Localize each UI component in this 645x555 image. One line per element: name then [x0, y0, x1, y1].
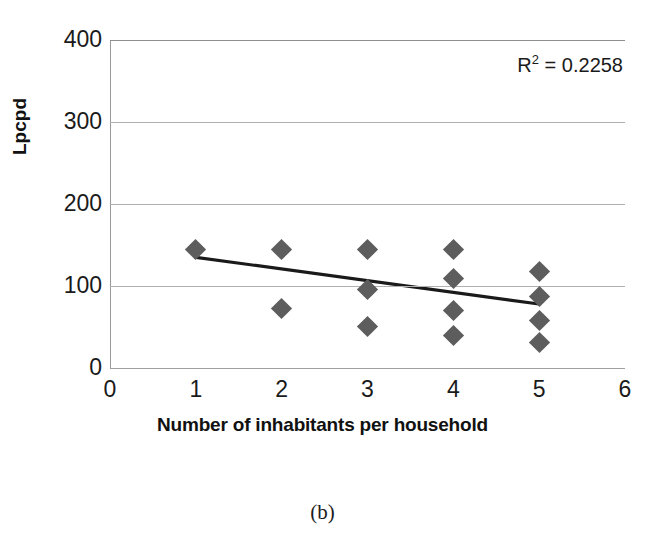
r-squared-exponent: 2 [532, 52, 539, 67]
gridline-y-300 [110, 122, 625, 123]
y-tick-label-100: 100 [32, 274, 102, 297]
x-axis-title: Number of inhabitants per household [0, 414, 645, 436]
x-tick-label-1: 1 [176, 378, 216, 401]
scatter-plot-figure: Lpcpd 4003002001000 R2 = 0.2258 0123456 … [0, 0, 645, 555]
figure-caption: (b) [0, 500, 645, 525]
y-tick-label-200: 200 [32, 192, 102, 215]
y-tick-label-300: 300 [32, 110, 102, 133]
x-tick-label-6: 6 [605, 378, 645, 401]
y-axis-tick-labels: 4003002001000 [28, 0, 102, 555]
x-tick-label-0: 0 [90, 378, 130, 401]
r-squared-annotation: R2 = 0.2258 [517, 52, 623, 77]
x-axis-tick-labels: 0123456 [0, 378, 645, 408]
gridline-y-0 [110, 368, 625, 369]
r-squared-symbol: R [517, 54, 531, 76]
r-squared-value: = 0.2258 [539, 54, 623, 76]
y-tick-label-0: 0 [32, 356, 102, 379]
x-tick-label-4: 4 [433, 378, 473, 401]
plot-area [110, 40, 625, 368]
y-tick-label-400: 400 [32, 28, 102, 51]
x-tick-label-2: 2 [262, 378, 302, 401]
gridline-y-200 [110, 204, 625, 205]
x-tick-label-3: 3 [348, 378, 388, 401]
x-tick-label-5: 5 [519, 378, 559, 401]
gridline-y-400 [110, 40, 625, 41]
